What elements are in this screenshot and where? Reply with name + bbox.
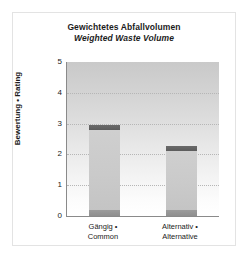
chart-figure: Gewichtetes Abfallvolumen Weighted Waste… — [0, 0, 249, 271]
x-label-common-line1: Gängig • — [89, 222, 118, 231]
y-axis-ticks: 5 4 3 2 1 0 — [44, 62, 62, 216]
bar-alternative-segment-base — [166, 210, 197, 216]
chart-subtitle: Weighted Waste Volume — [12, 33, 236, 44]
bar-common-segment-body — [89, 130, 120, 210]
bar-alternative[interactable] — [166, 148, 197, 216]
y-tick-5: 5 — [48, 58, 62, 66]
y-tick-4: 4 — [48, 89, 62, 97]
y-tick-2: 2 — [48, 150, 62, 158]
y-axis-title: Bewertung • Rating — [13, 59, 22, 159]
x-label-alternative: Alternativ • Alternative — [135, 222, 225, 242]
y-tick-1: 1 — [48, 181, 62, 189]
x-label-alternative-line2: Alternative — [135, 232, 225, 242]
y-tick-3: 3 — [48, 120, 62, 128]
y-tick-0: 0 — [48, 212, 62, 220]
bar-common-segment-cap — [89, 125, 120, 130]
chart-title-block: Gewichtetes Abfallvolumen Weighted Waste… — [12, 22, 236, 44]
x-label-alternative-line1: Alternativ • — [162, 222, 198, 231]
bar-alternative-segment-cap — [166, 146, 197, 151]
gridline-4 — [67, 93, 219, 94]
chart-title: Gewichtetes Abfallvolumen — [12, 22, 236, 33]
plot-area — [66, 62, 219, 217]
bar-common-segment-base — [89, 210, 120, 216]
bar-alternative-segment-body — [166, 151, 197, 210]
bar-common[interactable] — [89, 127, 120, 216]
